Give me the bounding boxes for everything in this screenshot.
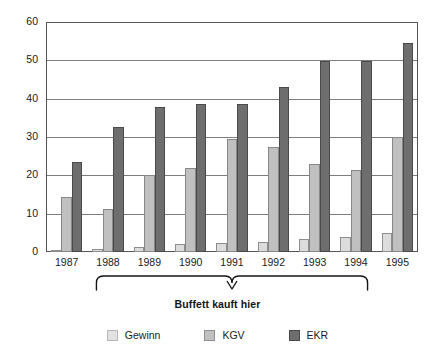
x-tick-label: 1993 — [294, 256, 335, 268]
x-tick-label: 1991 — [211, 256, 252, 268]
legend-label: KGV — [222, 330, 244, 341]
x-tick-label: 1988 — [87, 256, 128, 268]
legend-label: EKR — [307, 330, 329, 341]
legend-item-kgv[interactable]: KGV — [204, 330, 244, 341]
x-tick-label: 1995 — [377, 256, 418, 268]
annotation-label: Buffett kauft hier — [0, 298, 435, 310]
gewinn-swatch — [107, 330, 118, 341]
bar-chart: 0102030405060 19871988198919901991199219… — [0, 0, 435, 358]
bar-ekr-1987 — [72, 162, 83, 252]
bar-gewinn-1991 — [216, 243, 227, 252]
bar-kgv-1989 — [144, 175, 155, 252]
bar-kgv-1987 — [61, 197, 72, 252]
bar-group — [46, 22, 87, 252]
legend-label: Gewinn — [125, 330, 161, 341]
bar-ekr-1989 — [155, 107, 166, 252]
bar-ekr-1991 — [237, 104, 248, 252]
legend-item-gewinn[interactable]: Gewinn — [107, 330, 161, 341]
bar-kgv-1992 — [268, 147, 279, 252]
y-tick-label: 40 — [8, 93, 38, 103]
bar-gewinn-1988 — [92, 249, 103, 252]
x-tick-label: 1994 — [335, 256, 376, 268]
bar-kgv-1990 — [185, 168, 196, 252]
bar-group — [377, 22, 418, 252]
bar-kgv-1993 — [309, 164, 320, 252]
bar-kgv-1994 — [351, 170, 362, 252]
y-tick-label: 60 — [8, 16, 38, 26]
y-tick-label: 50 — [8, 54, 38, 64]
bar-kgv-1991 — [227, 139, 238, 252]
bar-ekr-1992 — [279, 87, 290, 252]
annotation-brace — [0, 268, 435, 300]
ekr-swatch — [289, 330, 300, 341]
x-tick-label: 1992 — [253, 256, 294, 268]
bar-gewinn-1994 — [340, 237, 351, 252]
legend-item-ekr[interactable]: EKR — [289, 330, 329, 341]
bar-group — [170, 22, 211, 252]
bar-group — [87, 22, 128, 252]
y-tick-label: 20 — [8, 169, 38, 179]
bar-kgv-1988 — [103, 209, 114, 252]
bar-group — [294, 22, 335, 252]
bar-ekr-1994 — [361, 61, 372, 252]
bar-gewinn-1990 — [175, 244, 186, 252]
x-tick-label: 1987 — [46, 256, 87, 268]
bar-group — [211, 22, 252, 252]
bar-gewinn-1992 — [258, 242, 269, 252]
bar-group — [253, 22, 294, 252]
y-tick-label: 30 — [8, 131, 38, 141]
bar-group — [335, 22, 376, 252]
bar-kgv-1995 — [392, 137, 403, 252]
x-tick-label: 1990 — [170, 256, 211, 268]
bar-ekr-1988 — [113, 127, 124, 252]
bar-gewinn-1995 — [382, 233, 393, 252]
bar-gewinn-1987 — [51, 250, 62, 252]
bar-group — [129, 22, 170, 252]
bar-ekr-1993 — [320, 61, 331, 252]
kgv-swatch — [204, 330, 215, 341]
brace-icon — [0, 268, 435, 300]
y-tick-label: 10 — [8, 208, 38, 218]
x-tick-label: 1989 — [129, 256, 170, 268]
bar-gewinn-1993 — [299, 239, 310, 252]
bar-gewinn-1989 — [134, 247, 145, 252]
y-tick-label: 0 — [8, 246, 38, 256]
bar-ekr-1990 — [196, 104, 207, 252]
bars-layer — [46, 22, 418, 252]
bar-ekr-1995 — [403, 43, 414, 252]
chart-legend: GewinnKGVEKR — [0, 330, 435, 341]
